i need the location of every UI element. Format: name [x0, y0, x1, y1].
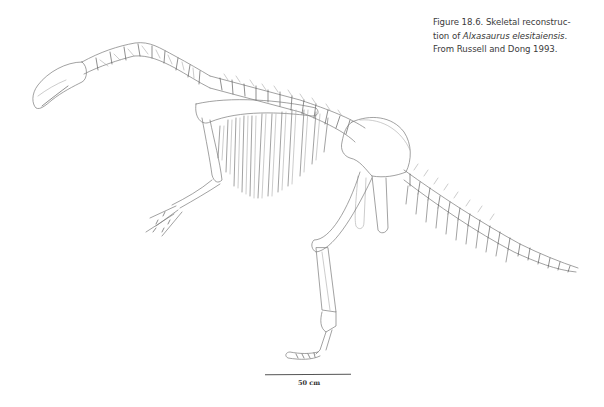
caption-line-2-prefix: tion of: [433, 31, 463, 41]
dorsal-vertebrae: [210, 74, 365, 142]
scapula: [196, 100, 318, 123]
pes: [286, 352, 320, 359]
figure: Figure 18.6. Skeletal reconstruc- tion o…: [0, 0, 604, 407]
figure-caption: Figure 18.6. Skeletal reconstruc- tion o…: [433, 16, 601, 57]
caption-line-1: Figure 18.6. Skeletal reconstruc-: [433, 16, 601, 30]
scale-bar-label: 50 cm: [265, 379, 353, 387]
hindlimb: [312, 172, 372, 354]
scale-bar-line: [265, 374, 351, 376]
caption-line-2: tion of Alxasaurus elesitaiensis.: [433, 30, 601, 44]
caption-line-3: From Russell and Dong 1993.: [433, 43, 601, 57]
caption-line-2-suffix: .: [565, 31, 568, 41]
ribs: [218, 110, 328, 198]
skull: [33, 62, 87, 109]
forelimb: [146, 118, 222, 236]
scale-bar: 50 cm: [265, 372, 353, 392]
caudal-vertebrae: [404, 164, 578, 272]
skeleton-illustration: [0, 0, 604, 407]
species-name: Alxasaurus elesitaiensis: [463, 31, 565, 41]
cervical-vertebrae: [82, 43, 210, 88]
